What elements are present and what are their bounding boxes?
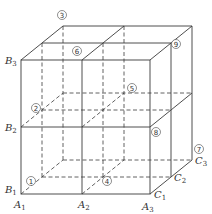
- label-c2: C2: [174, 172, 186, 185]
- cube-grid-diagram: B3 B2 B1 A1 A2 A3 C1 C2 C3 1 2 3 4 5 6 7…: [0, 0, 212, 214]
- svg-text:6: 6: [75, 48, 80, 56]
- front-face: [21, 60, 150, 194]
- label-a2: A2: [77, 199, 90, 212]
- circled-number-4: 4: [103, 177, 112, 186]
- svg-text:2: 2: [34, 105, 38, 113]
- svg-text:5: 5: [130, 85, 134, 93]
- circled-number-9: 9: [172, 40, 181, 49]
- svg-text:4: 4: [105, 178, 110, 186]
- label-a1: A1: [13, 199, 26, 212]
- circled-number-2: 2: [32, 104, 41, 113]
- svg-text:1: 1: [29, 178, 33, 186]
- label-c3: C3: [195, 155, 207, 168]
- hidden-edges: [21, 26, 192, 194]
- label-b2: B2: [4, 122, 17, 135]
- circled-number-1: 1: [27, 177, 36, 186]
- circled-number-8: 8: [152, 128, 161, 137]
- svg-text:8: 8: [154, 129, 158, 137]
- label-c1: C1: [154, 189, 166, 202]
- circled-number-3: 3: [58, 11, 67, 20]
- label-b1: B1: [4, 184, 17, 197]
- circled-number-5: 5: [128, 84, 137, 93]
- svg-text:9: 9: [174, 41, 178, 49]
- label-a3: A3: [141, 201, 154, 214]
- circled-number-6: 6: [73, 47, 82, 56]
- top-face: [21, 26, 192, 60]
- svg-text:7: 7: [197, 146, 201, 154]
- circled-numbers: 1 2 3 4 5 6 7 8 9: [27, 11, 204, 186]
- label-b3: B3: [4, 55, 17, 68]
- circled-number-7: 7: [195, 145, 204, 154]
- axis-labels: B3 B2 B1 A1 A2 A3 C1 C2 C3: [4, 55, 207, 214]
- svg-text:3: 3: [60, 12, 64, 20]
